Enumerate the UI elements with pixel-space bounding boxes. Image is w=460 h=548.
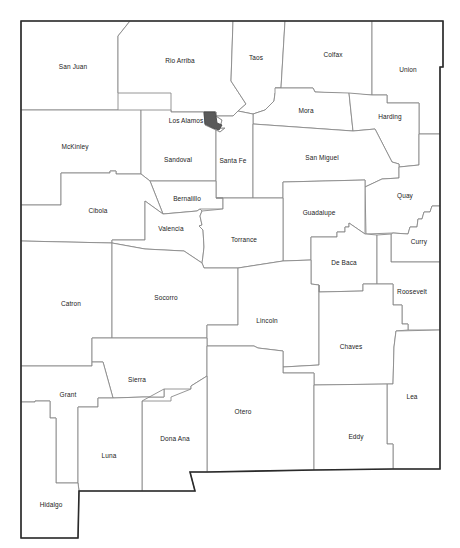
county-colfax[interactable] bbox=[275, 21, 372, 95]
county-eddy[interactable] bbox=[314, 384, 393, 470]
new-mexico-county-map bbox=[0, 0, 460, 548]
county-santa-fe[interactable] bbox=[216, 111, 253, 198]
county-lea[interactable] bbox=[387, 330, 440, 469]
county-rio-arriba[interactable] bbox=[118, 21, 246, 116]
county-san-juan[interactable] bbox=[21, 21, 130, 110]
